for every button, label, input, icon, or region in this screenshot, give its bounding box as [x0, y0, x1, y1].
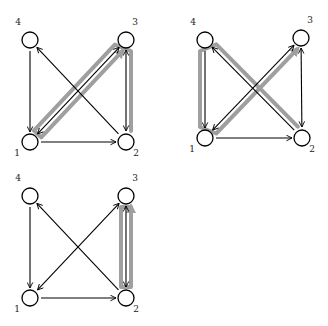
node-label-2: 2 — [133, 148, 139, 158]
node-label-1: 1 — [189, 144, 195, 154]
node-label-3: 3 — [132, 173, 138, 183]
node-1 — [22, 134, 38, 150]
node-2 — [118, 290, 134, 306]
node-label-4: 4 — [190, 17, 196, 27]
node-3 — [293, 30, 309, 46]
graph-b: 1234 — [189, 15, 315, 154]
node-1 — [22, 290, 38, 306]
node-4 — [22, 32, 38, 48]
node-4 — [197, 32, 213, 48]
node-label-3: 3 — [132, 17, 138, 27]
node-label-3: 3 — [307, 15, 313, 25]
node-2 — [294, 130, 310, 146]
node-label-2: 2 — [133, 304, 139, 314]
graph-a: 1234 — [14, 17, 139, 158]
highlighted-path — [34, 45, 131, 138]
node-label-4: 4 — [15, 173, 21, 183]
node-label-1: 1 — [14, 148, 20, 158]
node-4 — [22, 188, 38, 204]
node-label-1: 1 — [14, 304, 20, 314]
node-3 — [118, 32, 134, 48]
node-3 — [118, 188, 134, 204]
node-label-4: 4 — [15, 17, 21, 27]
node-1 — [197, 130, 213, 146]
node-label-2: 2 — [309, 144, 315, 154]
node-2 — [118, 134, 134, 150]
edge-2-3 — [301, 48, 302, 127]
diagram-canvas: 1234 1234 1234 — [0, 0, 328, 326]
highlighted-path — [200, 44, 298, 133]
graph-c: 1234 — [14, 173, 139, 314]
